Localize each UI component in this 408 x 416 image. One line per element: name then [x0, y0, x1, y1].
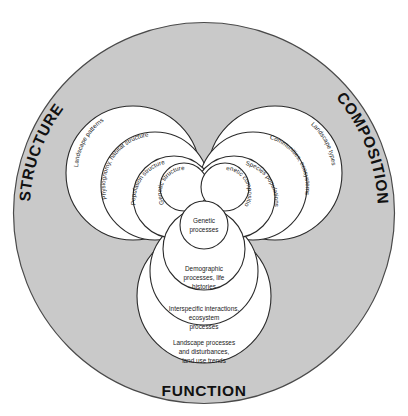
label-line-3: processes: [189, 323, 218, 331]
label-line-2: processes, life: [184, 274, 225, 282]
biodiversity-diagram: STRUCTURE COMPOSITION FUNCTION Landscape…: [0, 0, 408, 416]
label-line-2: ecosystem: [189, 314, 220, 322]
label-function-genetic-processes: Genetic processes: [189, 217, 218, 234]
lobe-function-level-1: [180, 201, 228, 249]
label-line-2: and disturbances,: [179, 348, 230, 355]
label-line-3: land use trends: [182, 357, 226, 364]
label-line-1: Genetic: [193, 217, 216, 224]
label-line-2: processes: [189, 226, 218, 234]
label-line-1: Interspecific interactions,: [169, 305, 240, 313]
label-function-landscape-processes: Landscape processes and disturbances, la…: [173, 339, 235, 364]
label-line-1: Demographic: [185, 265, 224, 273]
label-line-3: histories: [192, 283, 216, 290]
label-line-1: Landscape processes: [173, 339, 235, 347]
diagram-canvas: STRUCTURE COMPOSITION FUNCTION Landscape…: [0, 0, 408, 416]
axis-label-function: FUNCTION: [162, 382, 247, 399]
